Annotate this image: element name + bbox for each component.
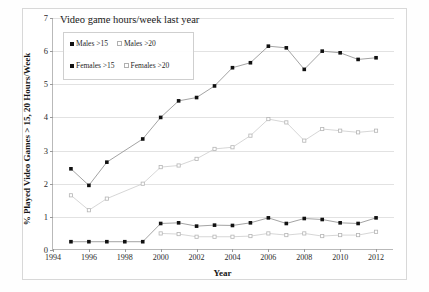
data-point-marker — [374, 129, 377, 132]
filled-square-icon — [70, 64, 74, 68]
data-point-marker — [285, 222, 289, 226]
filled-square-icon — [70, 42, 74, 46]
data-point-marker — [87, 240, 91, 244]
data-point-marker — [231, 235, 234, 238]
legend-item-males-20: Males >20 — [117, 40, 156, 48]
x-tick-label: 2006 — [260, 254, 276, 262]
data-point-marker — [159, 222, 163, 226]
data-point-marker — [231, 224, 235, 228]
x-tick-label: 2012 — [368, 254, 384, 262]
data-point-marker — [374, 230, 377, 233]
legend-item-females-15: Females >15 — [70, 62, 115, 70]
series-line — [71, 119, 376, 210]
data-point-marker — [249, 61, 253, 65]
x-tick-label: 1998 — [117, 254, 133, 262]
data-point-marker — [213, 235, 216, 238]
data-point-marker — [285, 121, 288, 124]
chart-legend: Males >15 Males >20 Females >15 Females … — [63, 32, 194, 80]
data-point-marker — [320, 218, 324, 222]
y-tick-label: 3 — [44, 146, 48, 155]
data-point-marker — [249, 221, 253, 225]
open-square-icon — [117, 41, 122, 46]
legend-row-males: Males >15 Males >20 — [70, 40, 156, 48]
data-point-marker — [195, 235, 198, 238]
data-point-marker — [339, 233, 342, 236]
x-tick-label: 2010 — [332, 254, 348, 262]
data-point-marker — [177, 99, 181, 103]
y-tick-label: 4 — [44, 113, 48, 122]
chart-figure: 01234567 1994199619982000200220042006200… — [0, 0, 429, 292]
data-point-marker — [69, 194, 72, 197]
data-point-marker — [105, 240, 109, 244]
data-point-marker — [339, 129, 342, 132]
data-point-marker — [69, 240, 73, 244]
data-point-marker — [320, 49, 324, 53]
y-tick-label: 6 — [44, 47, 48, 56]
x-tick-label: 2008 — [296, 254, 312, 262]
data-point-marker — [267, 232, 270, 235]
data-point-marker — [357, 233, 360, 236]
data-point-marker — [159, 116, 163, 120]
data-point-marker — [285, 233, 288, 236]
data-point-marker — [267, 216, 271, 220]
data-point-marker — [87, 209, 90, 212]
data-point-marker — [141, 240, 145, 244]
x-tick-label: 2002 — [189, 254, 205, 262]
data-point-marker — [302, 68, 306, 72]
legend-label: Males >15 — [76, 40, 108, 48]
chart-title: Video game hours/week last year — [60, 14, 199, 25]
data-point-marker — [213, 223, 217, 227]
legend-item-males-15: Males >15 — [70, 40, 108, 48]
data-point-marker — [374, 56, 378, 60]
data-point-marker — [338, 51, 342, 55]
data-point-marker — [338, 221, 342, 225]
data-point-marker — [105, 197, 108, 200]
legend-label: Females >15 — [76, 62, 115, 70]
y-tick-label: 5 — [44, 80, 48, 89]
data-point-marker — [285, 46, 289, 50]
y-axis-title: % Played Video Games > 15, 20 Hours/Week — [22, 34, 32, 244]
data-point-marker — [249, 134, 252, 137]
legend-label: Males >20 — [124, 40, 156, 48]
data-point-marker — [303, 139, 306, 142]
legend-item-females-20: Females >20 — [124, 62, 170, 70]
y-tick-label: 7 — [44, 14, 48, 23]
data-point-marker — [321, 127, 324, 130]
legend-row-females: Females >15 Females >20 — [70, 62, 169, 70]
data-point-marker — [249, 234, 252, 237]
data-point-marker — [213, 84, 217, 88]
x-tick-label: 2004 — [224, 254, 240, 262]
data-point-marker — [177, 221, 181, 225]
data-point-marker — [195, 96, 199, 100]
data-point-marker — [374, 216, 378, 220]
x-axis-title: Year — [52, 268, 393, 278]
data-point-marker — [123, 240, 127, 244]
data-point-marker — [302, 217, 306, 221]
data-point-marker — [357, 131, 360, 134]
data-point-marker — [303, 232, 306, 235]
data-point-marker — [267, 44, 271, 48]
data-point-marker — [267, 117, 270, 120]
data-point-marker — [213, 147, 216, 150]
data-point-marker — [177, 232, 180, 235]
y-tick-label: 2 — [44, 179, 48, 188]
data-point-marker — [105, 160, 109, 164]
data-point-marker — [356, 222, 360, 226]
data-point-marker — [177, 164, 180, 167]
data-point-marker — [69, 167, 73, 171]
data-point-marker — [321, 234, 324, 237]
y-tick-label: 1 — [44, 213, 48, 222]
x-tick-label: 1996 — [81, 254, 97, 262]
x-tick-label: 2000 — [153, 254, 169, 262]
data-point-marker — [231, 66, 235, 70]
data-point-marker — [159, 232, 162, 235]
series-line — [71, 218, 376, 242]
data-point-marker — [141, 137, 145, 141]
data-point-marker — [159, 166, 162, 169]
data-point-marker — [195, 157, 198, 160]
data-point-marker — [231, 146, 234, 149]
open-square-icon — [124, 63, 129, 68]
data-point-marker — [195, 224, 199, 228]
data-point-marker — [141, 182, 144, 185]
x-tick-label: 1994 — [45, 254, 61, 262]
